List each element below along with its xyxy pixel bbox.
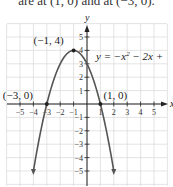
- x-tick-label: −4: [29, 108, 38, 117]
- parabola-graph: yx −5−4−3−2−112345−5−4−3−2−112345 (−1, 4…: [0, 0, 173, 187]
- x-tick-label: −2: [56, 108, 65, 117]
- y-axis-arrow-icon: [85, 25, 90, 32]
- y-tick-label: 1: [79, 87, 83, 96]
- point-x-intercept: [98, 102, 102, 106]
- point-vertex: [72, 48, 76, 52]
- label-vertex: (−1, 4): [34, 34, 64, 47]
- x-tick-label: 5: [152, 108, 156, 117]
- y-tick-label: 3: [79, 60, 83, 69]
- point-x-intercept: [45, 102, 49, 106]
- y-axis-label: y: [84, 12, 90, 23]
- x-tick-label: −5: [16, 108, 25, 117]
- y-tick-label: −1: [74, 113, 83, 122]
- label-x-intercept: (1, 0): [103, 89, 127, 102]
- y-tick-label: −3: [74, 140, 83, 149]
- y-tick-label: 5: [79, 33, 83, 42]
- y-tick-label: −2: [74, 127, 83, 136]
- x-axis-arrow-icon: [161, 102, 168, 107]
- x-tick-label: 2: [112, 108, 116, 117]
- x-axis-label: x: [169, 98, 173, 109]
- y-tick-label: −4: [74, 154, 83, 163]
- equation-label: y = −x2 − 2x +: [95, 50, 163, 62]
- x-tick-label: 3: [125, 108, 129, 117]
- y-tick-label: −5: [74, 167, 83, 176]
- y-tick-label: 2: [79, 73, 83, 82]
- x-tick-label: 4: [139, 108, 143, 117]
- label-x-intercept: (−3, 0): [3, 89, 33, 102]
